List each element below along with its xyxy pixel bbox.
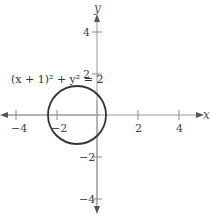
x-tick-label-2: 2: [135, 122, 142, 135]
y-tick-label-neg4: −4: [79, 193, 95, 206]
y-tick-label-neg2: −2: [79, 151, 95, 164]
y-tick-label-4: 4: [83, 26, 90, 39]
x-axis-label: x: [203, 108, 210, 122]
coordinate-plane: −4 −2 2 4 4 2 −2 −4 x y (x + 1)² + y² = …: [0, 0, 211, 214]
equation-label: (x + 1)² + y² = 2: [11, 73, 103, 86]
y-axis-label: y: [93, 1, 101, 15]
x-tick-label-4: 4: [176, 122, 183, 135]
x-tick-label-neg4: −4: [11, 122, 27, 135]
